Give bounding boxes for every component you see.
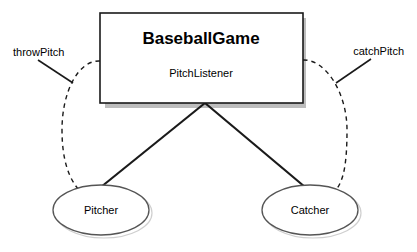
subject-to-catcher-line[interactable] <box>205 103 305 187</box>
diagram-svg: BaseballGame PitchListener Pitcher Catch… <box>0 0 417 252</box>
class-box-baseballgame[interactable] <box>100 13 303 103</box>
catch-pitch-label: catchPitch <box>353 45 404 57</box>
catch-pitch-leader-line <box>336 59 371 83</box>
class-subtitle-label: PitchListener <box>169 67 233 79</box>
class-title-label: BaseballGame <box>142 29 259 48</box>
throw-pitch-label: throwPitch <box>13 46 64 58</box>
pitcher-label: Pitcher <box>84 204 119 216</box>
subject-to-pitcher-line[interactable] <box>101 103 205 187</box>
catcher-label: Catcher <box>291 204 330 216</box>
uml-diagram-canvas: BaseballGame PitchListener Pitcher Catch… <box>0 0 417 252</box>
throw-pitch-leader-line <box>38 60 73 83</box>
